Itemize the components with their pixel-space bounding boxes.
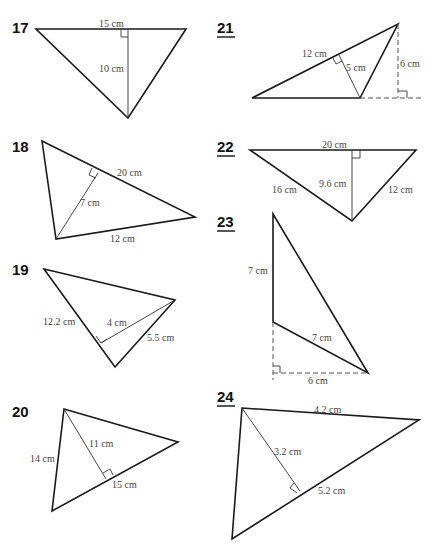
- altitude-label: 7 cm: [80, 197, 100, 208]
- problem-24: 24 4.2 cm 3.2 cm 5.2 cm: [217, 388, 419, 539]
- right-angle-icon: [398, 91, 407, 98]
- problem-17: 17 15 cm 10 cm: [12, 18, 186, 118]
- right-angle-icon: [352, 150, 360, 158]
- distance-label: 6 cm: [308, 375, 328, 386]
- side-label: 16 cm: [272, 184, 297, 195]
- right-angle-icon: [121, 29, 128, 37]
- side-label: 12.2 cm: [43, 316, 75, 327]
- problem-20: 20 14 cm 11 cm 15 cm: [12, 403, 178, 511]
- base-label: 15 cm: [99, 18, 124, 29]
- problem-19: 19 12.2 cm 4 cm 5.5 cm: [12, 261, 175, 367]
- side-label: 7 cm: [312, 332, 332, 343]
- altitude-label: 11 cm: [89, 438, 114, 449]
- side-label: 12 cm: [388, 184, 413, 195]
- base-label: 12 cm: [110, 233, 135, 244]
- side-label: 20 cm: [117, 167, 142, 178]
- altitude-label: 3.2 cm: [274, 446, 301, 457]
- triangle: [52, 409, 178, 511]
- triangle: [232, 408, 419, 539]
- side-label: 14 cm: [30, 453, 55, 464]
- problem-number: 17: [12, 19, 29, 36]
- triangle-exercises: 17 15 cm 10 cm 21 12 cm 5 cm 6 cm 18 20 …: [0, 0, 437, 555]
- problem-number: 20: [12, 403, 29, 420]
- problem-23: 23 7 cm 7 cm 6 cm: [217, 213, 368, 386]
- problem-number: 18: [12, 138, 29, 155]
- problem-number: 23: [217, 213, 234, 230]
- problem-number: 19: [12, 261, 29, 278]
- problem-number: 24: [217, 388, 234, 405]
- triangle: [273, 214, 368, 373]
- side-label: 7 cm: [248, 265, 268, 276]
- problem-18: 18 20 cm 7 cm 12 cm: [12, 138, 195, 244]
- altitude-label: 4 cm: [107, 317, 127, 328]
- height-label: 6 cm: [400, 58, 420, 69]
- right-angle-icon: [89, 168, 96, 178]
- problem-number: 22: [217, 138, 234, 155]
- base-label: 20 cm: [322, 139, 347, 150]
- right-angle-icon: [103, 469, 113, 475]
- altitude-label: 5 cm: [346, 62, 366, 73]
- problem-22: 22 20 cm 16 cm 9.6 cm 12 cm: [217, 138, 416, 221]
- side-label: 4.2 cm: [314, 404, 341, 415]
- base-label: 15 cm: [112, 479, 137, 490]
- base-label: 5.2 cm: [318, 485, 345, 496]
- problem-number: 21: [217, 19, 234, 36]
- triangle: [252, 24, 398, 98]
- right-angle-icon: [273, 366, 280, 373]
- height-label: 9.6 cm: [319, 178, 346, 189]
- side-label: 12 cm: [302, 48, 327, 59]
- side-label: 5.5 cm: [147, 332, 174, 343]
- height-label: 10 cm: [99, 63, 124, 74]
- problem-21: 21 12 cm 5 cm 6 cm: [217, 19, 422, 98]
